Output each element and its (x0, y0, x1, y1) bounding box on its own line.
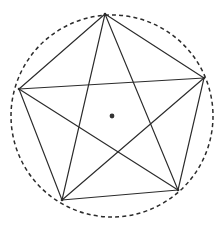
edge-bottomleft-left (19, 89, 62, 200)
diagonal-bottomright-left (19, 89, 178, 190)
diagonal-top-bottomright (105, 14, 178, 190)
vertex-top (104, 13, 107, 16)
diagonal-right-bottomleft (62, 78, 204, 200)
edge-left-top (19, 14, 105, 89)
diagonal-top-bottomleft (62, 14, 105, 200)
pentagon-figure-canvas (0, 0, 222, 226)
edge-bottomright-bottomleft (62, 190, 178, 200)
center-point-dot (110, 114, 115, 119)
vertex-right (203, 77, 206, 80)
pentagon-vertices-group (18, 13, 206, 202)
edge-right-bottomright (178, 78, 204, 190)
geometry-diagram (0, 0, 222, 226)
diagonal-right-left (19, 78, 204, 89)
vertex-left (18, 88, 21, 91)
vertex-bottom-left (61, 199, 64, 202)
vertex-bottom-right (177, 189, 180, 192)
pentagon-diagonals-group (19, 14, 204, 200)
